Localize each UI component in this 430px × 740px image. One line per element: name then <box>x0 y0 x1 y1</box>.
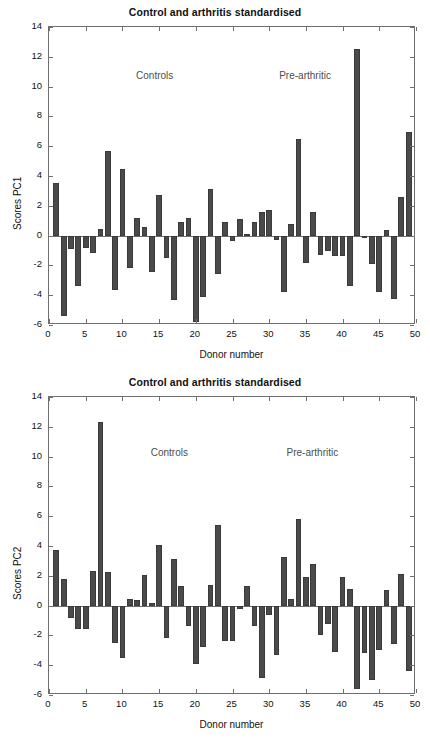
x-axis-tick <box>233 27 234 31</box>
y-axis-tick-label: 4 <box>14 169 42 180</box>
x-axis-tick <box>306 27 307 31</box>
bar <box>237 219 243 235</box>
y-axis-tick <box>49 606 53 607</box>
bar <box>105 572 111 606</box>
bar <box>376 236 382 293</box>
bar <box>347 236 353 286</box>
bar <box>120 169 126 235</box>
y-axis-tick <box>410 87 414 88</box>
bar <box>237 606 243 609</box>
bar <box>61 579 67 606</box>
bar <box>325 236 331 252</box>
y-axis-tick-label: -2 <box>14 258 42 269</box>
bar <box>120 606 126 658</box>
bar <box>281 236 287 293</box>
bar <box>98 229 104 235</box>
x-axis-tick <box>122 27 123 31</box>
x-axis-tick <box>343 319 344 323</box>
plot-area-pc2 <box>48 396 415 694</box>
bar <box>369 606 375 681</box>
y-axis-tick-label: 2 <box>14 569 42 580</box>
x-axis-tick-label: 5 <box>70 698 100 709</box>
x-axis-tick <box>49 319 50 323</box>
bar <box>244 586 250 605</box>
bar <box>178 222 184 235</box>
x-axis-tick <box>269 397 270 401</box>
bar <box>391 236 397 299</box>
bar <box>200 236 206 297</box>
x-axis-tick-label: 50 <box>400 698 430 709</box>
y-axis-tick-label: 8 <box>14 479 42 490</box>
chart-title-pc1: Control and arthritis standardised <box>0 6 430 18</box>
group-annotation-pre-arthritic: Pre-arthritic <box>287 447 339 458</box>
x-axis-tick-label: 10 <box>106 698 136 709</box>
bar <box>318 606 324 636</box>
bar <box>186 606 192 627</box>
x-axis-tick-label: 40 <box>327 328 357 339</box>
y-axis-tick <box>410 606 414 607</box>
chart-panel-pc1: Control and arthritis standardised Score… <box>0 0 430 370</box>
bar <box>318 236 324 255</box>
group-annotation-controls: Controls <box>136 70 173 81</box>
x-axis-tick <box>122 397 123 401</box>
y-axis-tick <box>49 457 53 458</box>
y-axis-tick <box>49 427 53 428</box>
bar <box>296 519 302 605</box>
bar <box>288 224 294 235</box>
x-axis-tick <box>416 27 417 31</box>
x-axis-tick <box>196 689 197 693</box>
y-axis-tick <box>49 116 53 117</box>
y-axis-tick <box>49 546 53 547</box>
chart-panel-pc2: Control and arthritis standardised Score… <box>0 370 430 740</box>
y-axis-tick <box>410 206 414 207</box>
bar <box>68 236 74 249</box>
bar <box>90 571 96 606</box>
bar <box>127 236 133 268</box>
bar <box>186 218 192 235</box>
y-axis-tick-label: 6 <box>14 139 42 150</box>
bar <box>142 227 148 236</box>
y-axis-tick <box>410 486 414 487</box>
bar <box>61 236 67 316</box>
bar <box>149 603 155 605</box>
x-axis-tick <box>49 27 50 31</box>
y-axis-tick <box>410 116 414 117</box>
y-axis-tick-label: 2 <box>14 199 42 210</box>
y-axis-tick <box>410 635 414 636</box>
x-axis-tick <box>416 397 417 401</box>
bar <box>259 212 265 236</box>
y-axis-tick <box>410 236 414 237</box>
y-axis-tick <box>49 176 53 177</box>
y-axis-tick <box>410 265 414 266</box>
bar <box>53 550 59 606</box>
x-axis-tick <box>159 689 160 693</box>
bar <box>75 606 81 630</box>
y-axis-tick <box>49 576 53 577</box>
x-axis-tick-label: 25 <box>217 328 247 339</box>
x-axis-tick-label: 35 <box>290 328 320 339</box>
y-axis-tick <box>410 57 414 58</box>
y-axis-tick-label: -4 <box>14 288 42 299</box>
y-axis-tick-label: -4 <box>14 658 42 669</box>
bar <box>134 600 140 606</box>
bar <box>266 606 272 616</box>
bar <box>406 132 412 236</box>
bar <box>310 564 316 606</box>
y-axis-tick <box>49 57 53 58</box>
bar <box>230 606 236 642</box>
bar <box>127 599 133 606</box>
bar <box>149 236 155 273</box>
y-axis-tick <box>410 695 414 696</box>
x-axis-tick-label: 30 <box>253 328 283 339</box>
x-axis-tick-label: 20 <box>180 328 210 339</box>
y-axis-tick <box>410 576 414 577</box>
x-axis-tick-label: 10 <box>106 328 136 339</box>
x-axis-tick <box>196 397 197 401</box>
bar <box>222 606 228 641</box>
x-axis-tick-label: 40 <box>327 698 357 709</box>
bar <box>75 236 81 287</box>
x-axis-tick <box>86 689 87 693</box>
y-axis-tick <box>410 516 414 517</box>
x-axis-tick <box>196 27 197 31</box>
y-axis-tick <box>49 516 53 517</box>
